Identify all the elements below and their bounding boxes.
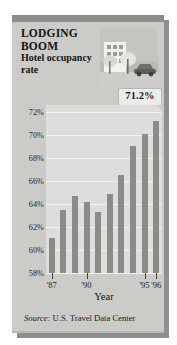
y-axis-tick-label: 72% xyxy=(29,107,44,116)
chart-subtitle: Hotel occupancy rate xyxy=(21,52,99,75)
source-note: Source: U.S. Travel Data Center xyxy=(24,313,154,324)
bar xyxy=(72,196,78,273)
x-axis-tick-label: '96 xyxy=(151,280,161,290)
x-axis-tick xyxy=(52,273,53,279)
plot-area xyxy=(46,105,162,273)
x-axis-tick xyxy=(145,273,146,279)
bar xyxy=(130,146,136,273)
page-title: LODGING BOOM xyxy=(21,27,99,52)
infographic-figure: LODGING BOOM Hotel occupancy rate xyxy=(0,0,177,345)
x-axis-tick-label: '90 xyxy=(82,280,92,290)
y-axis-tick-label: 62% xyxy=(29,222,44,231)
x-axis-tick xyxy=(87,273,88,279)
x-axis-tick xyxy=(156,273,157,279)
y-axis-labels: 72%70%68%66%64%62%60%58% xyxy=(14,99,46,279)
x-axis-tick-label: '87 xyxy=(47,280,57,290)
hotel-building-photo xyxy=(100,28,158,88)
bar xyxy=(95,212,101,273)
panel-bottom-rule xyxy=(12,331,164,333)
y-axis-tick-label: 68% xyxy=(29,153,44,162)
y-axis-tick-label: 58% xyxy=(29,269,44,278)
bar xyxy=(60,210,66,273)
y-axis-tick-label: 66% xyxy=(29,176,44,185)
bar xyxy=(49,238,55,273)
bar xyxy=(153,121,159,273)
callout-value: 71.2% xyxy=(119,90,161,101)
chart-panel: LODGING BOOM Hotel occupancy rate xyxy=(12,15,164,333)
x-axis-tick-label: '95 xyxy=(140,280,150,290)
hotel-building-icon xyxy=(100,28,158,88)
panel-top-band xyxy=(12,15,164,22)
source-value: U.S. Travel Data Center xyxy=(50,313,135,323)
bar xyxy=(142,134,148,273)
status-badge: 71.2% xyxy=(118,88,162,105)
y-axis-tick-label: 70% xyxy=(29,130,44,139)
bar xyxy=(107,194,113,273)
y-axis-tick-label: 60% xyxy=(29,245,44,254)
x-axis-title: Year xyxy=(46,291,162,302)
source-label: Source: xyxy=(24,313,50,323)
bar xyxy=(84,202,90,273)
gridline xyxy=(46,112,162,113)
plot-area-wrapper xyxy=(46,105,162,273)
y-axis-tick-label: 64% xyxy=(29,199,44,208)
bar xyxy=(118,175,124,273)
